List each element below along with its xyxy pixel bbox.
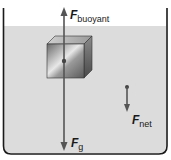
label-f-net: Fnet xyxy=(132,110,152,128)
center-point xyxy=(62,59,66,63)
label-f-buoyant: Fbuoyant xyxy=(70,5,109,23)
arrow-up-icon xyxy=(61,7,68,16)
diagram-canvas xyxy=(0,0,171,160)
label-f-g: Fg xyxy=(71,133,83,151)
cube xyxy=(47,36,92,78)
